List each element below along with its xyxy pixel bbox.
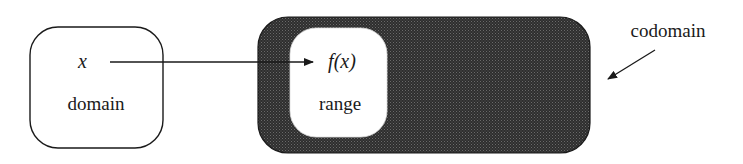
domain-variable: x — [77, 50, 87, 72]
range-box: f(x) range — [290, 28, 387, 137]
domain-label: domain — [68, 93, 125, 114]
range-label: range — [319, 93, 361, 114]
range-value: f(x) — [328, 50, 356, 73]
domain-box: x domain — [30, 27, 163, 148]
function-diagram: x domain f(x) range codomain — [0, 0, 743, 164]
codomain-label: codomain — [631, 20, 706, 41]
range-value-text: f(x) — [328, 50, 356, 73]
codomain-pointer-arrow — [608, 50, 655, 79]
